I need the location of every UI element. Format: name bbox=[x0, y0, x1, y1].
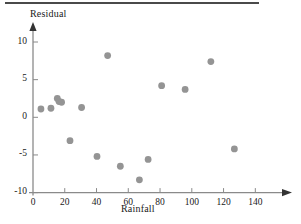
x-axis-arrowhead bbox=[282, 189, 292, 196]
x-tick-label: 40 bbox=[82, 197, 112, 207]
x-tick-label: 60 bbox=[113, 197, 143, 207]
y-tick-label: -5 bbox=[1, 148, 27, 158]
y-tick-label: 10 bbox=[1, 36, 27, 46]
data-point bbox=[117, 163, 124, 170]
y-tick-label: 0 bbox=[1, 111, 27, 121]
plot-area bbox=[0, 0, 301, 224]
x-tick-label: 120 bbox=[209, 197, 239, 207]
data-point bbox=[58, 99, 65, 106]
x-tick-label: 80 bbox=[145, 197, 175, 207]
data-point bbox=[94, 153, 101, 160]
data-point bbox=[38, 106, 45, 113]
data-point bbox=[78, 104, 85, 111]
y-axis-title: Residual bbox=[30, 8, 67, 19]
data-point bbox=[67, 137, 74, 144]
y-tick-label: 5 bbox=[1, 73, 27, 83]
data-point bbox=[231, 146, 238, 153]
x-tick-label: 20 bbox=[50, 197, 80, 207]
x-tick-label: 100 bbox=[177, 197, 207, 207]
residual-scatter-figure: Residual Rainfall 020406080100120140-10-… bbox=[0, 0, 301, 224]
y-tick-label: -10 bbox=[1, 186, 27, 196]
data-point bbox=[48, 105, 55, 112]
data-point bbox=[182, 86, 189, 93]
data-point bbox=[158, 82, 165, 89]
x-tick-label: 0 bbox=[18, 197, 48, 207]
data-point bbox=[145, 156, 152, 163]
data-point bbox=[136, 176, 143, 183]
data-point bbox=[104, 52, 111, 59]
y-axis-arrowhead bbox=[29, 22, 36, 31]
x-tick-label: 140 bbox=[240, 197, 270, 207]
data-point bbox=[207, 58, 214, 65]
